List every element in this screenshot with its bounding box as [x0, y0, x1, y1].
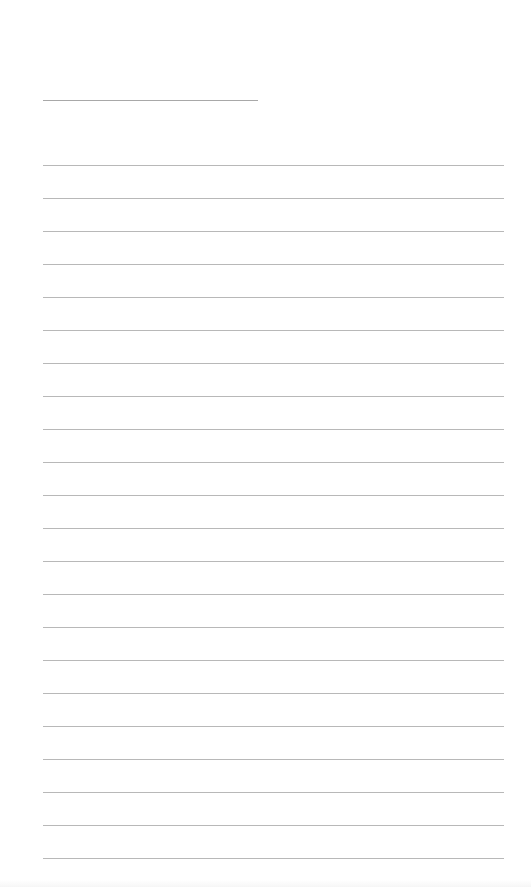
write-line-6[interactable] — [43, 330, 504, 331]
ruled-lines-area — [0, 0, 531, 887]
write-line-4[interactable] — [43, 264, 504, 265]
write-line-18[interactable] — [43, 726, 504, 727]
write-line-22[interactable] — [43, 858, 504, 859]
write-line-3[interactable] — [43, 231, 504, 232]
write-line-12[interactable] — [43, 528, 504, 529]
write-line-5[interactable] — [43, 297, 504, 298]
write-line-2[interactable] — [43, 198, 504, 199]
write-line-21[interactable] — [43, 825, 504, 826]
write-line-8[interactable] — [43, 396, 504, 397]
write-line-14[interactable] — [43, 594, 504, 595]
write-line-16[interactable] — [43, 660, 504, 661]
write-line-17[interactable] — [43, 693, 504, 694]
write-line-15[interactable] — [43, 627, 504, 628]
write-line-1[interactable] — [43, 165, 504, 166]
write-line-19[interactable] — [43, 759, 504, 760]
write-line-9[interactable] — [43, 429, 504, 430]
write-line-10[interactable] — [43, 462, 504, 463]
write-line-7[interactable] — [43, 363, 504, 364]
write-line-13[interactable] — [43, 561, 504, 562]
write-line-11[interactable] — [43, 495, 504, 496]
page-bottom-edge — [0, 880, 531, 887]
write-line-20[interactable] — [43, 792, 504, 793]
